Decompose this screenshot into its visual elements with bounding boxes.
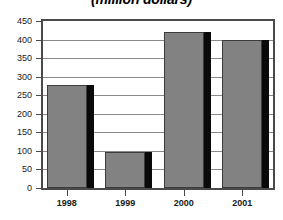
y-tick-label: 350 <box>17 54 32 63</box>
x-tick-mark <box>242 190 243 196</box>
bar-group <box>222 40 269 188</box>
y-tick-label: 450 <box>17 17 32 26</box>
x-tick-label: 1999 <box>115 199 135 208</box>
chart-title: (million dollars) <box>0 0 283 7</box>
bar-shadow <box>262 40 269 188</box>
bar <box>47 85 87 188</box>
bar <box>105 152 145 188</box>
bar-group <box>105 152 152 188</box>
x-tick-label: 1998 <box>57 199 77 208</box>
bar-shadow <box>145 152 152 188</box>
x-axis: 1998199920002001 <box>41 190 275 220</box>
bars-layer <box>41 19 275 190</box>
x-tick-mark <box>184 190 185 196</box>
y-axis: 050100150200250300350400450 <box>0 19 41 190</box>
x-tick-mark <box>125 190 126 196</box>
y-tick-label: 0 <box>27 184 32 193</box>
y-tick-label: 150 <box>17 128 32 137</box>
bar-shadow <box>87 85 94 188</box>
bar-group <box>47 85 94 188</box>
x-tick-label: 2000 <box>174 199 194 208</box>
y-tick-label: 100 <box>17 146 32 155</box>
y-tick-label: 400 <box>17 35 32 44</box>
y-tick-label: 250 <box>17 91 32 100</box>
y-tick-label: 300 <box>17 72 32 81</box>
bar-chart: (million dollars) 0501001502002503003504… <box>0 0 283 220</box>
bar-shadow <box>204 32 211 188</box>
bar-group <box>164 32 211 188</box>
x-tick-label: 2001 <box>232 199 252 208</box>
y-tick-label: 50 <box>22 165 32 174</box>
bar <box>164 32 204 188</box>
y-tick-label: 200 <box>17 109 32 118</box>
bar <box>222 40 262 188</box>
x-tick-mark <box>67 190 68 196</box>
